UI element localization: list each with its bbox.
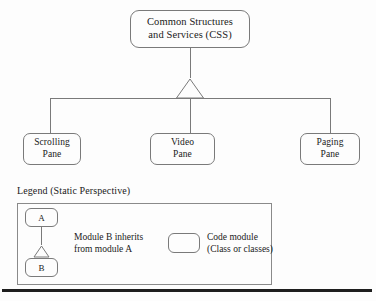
legend-module-line1: Code module xyxy=(207,231,273,243)
node-label-line2: Pane xyxy=(173,149,192,161)
legend-inherit-line1: Module B inherits xyxy=(74,231,143,243)
node-label-line1: Paging xyxy=(317,137,344,149)
legend-node-b-label: B xyxy=(38,263,44,273)
legend-code-module-swatch xyxy=(168,233,200,253)
connector-drop-scrolling-pane xyxy=(50,98,51,133)
connector-root-trunk xyxy=(190,48,191,78)
diagram-page: Common Structures and Services (CSS) Scr… xyxy=(0,0,376,301)
node-label-line2: and Services (CSS) xyxy=(148,29,231,42)
legend-code-module-description: Code module (Class or classes) xyxy=(207,231,273,256)
node-video-pane: Video Pane xyxy=(150,133,215,165)
node-label-line1: Video xyxy=(171,137,194,149)
legend-connector-line xyxy=(41,227,42,245)
connector-drop-paging-pane xyxy=(330,98,331,133)
page-footer-rule xyxy=(2,289,372,292)
connector-drop-video-pane xyxy=(190,98,191,133)
legend-node-a-label: A xyxy=(38,213,45,223)
node-common-structures-and-services: Common Structures and Services (CSS) xyxy=(130,10,250,48)
legend-title: Legend (Static Perspective) xyxy=(17,185,130,196)
node-label-line2: Pane xyxy=(43,149,62,161)
node-scrolling-pane: Scrolling Pane xyxy=(23,133,81,165)
node-label-line1: Common Structures xyxy=(147,16,233,29)
legend-module-line2: (Class or classes) xyxy=(207,243,273,255)
legend-inherit-line2: from module A xyxy=(74,243,143,255)
legend-generalization-triangle-icon xyxy=(33,245,50,258)
legend-inheritance-description: Module B inherits from module A xyxy=(74,231,143,256)
legend-node-b: B xyxy=(25,258,58,277)
node-paging-pane: Paging Pane xyxy=(300,133,360,165)
node-label-line1: Scrolling xyxy=(34,137,70,149)
generalization-triangle-icon xyxy=(175,78,205,99)
legend-node-a: A xyxy=(25,208,58,227)
node-label-line2: Pane xyxy=(321,149,340,161)
